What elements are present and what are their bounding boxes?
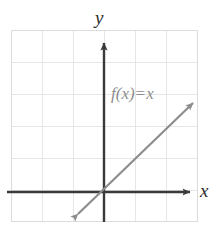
math-figure: y x f(x)=x [0, 0, 218, 236]
x-axis-label: x [200, 181, 208, 200]
function-label-lhs: f(x) [111, 84, 135, 103]
function-equation-label: f(x)=x [111, 85, 154, 102]
function-label-rhs: x [146, 84, 154, 103]
function-label-operator: = [135, 84, 147, 103]
y-axis-label: y [95, 8, 103, 27]
graph-canvas [0, 0, 218, 236]
